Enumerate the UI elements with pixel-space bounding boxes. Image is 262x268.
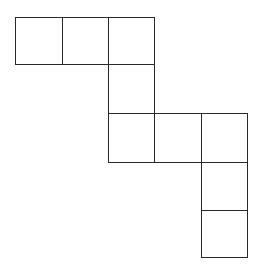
net-square-7 xyxy=(201,113,248,163)
net-square-4 xyxy=(108,64,155,114)
net-square-1 xyxy=(15,17,63,65)
net-square-6 xyxy=(154,113,202,163)
net-square-2 xyxy=(62,17,109,65)
square-net-diagram xyxy=(0,0,262,268)
net-square-8 xyxy=(201,162,248,211)
net-square-9 xyxy=(201,210,248,258)
net-square-5 xyxy=(108,113,155,163)
net-square-3 xyxy=(108,17,155,65)
